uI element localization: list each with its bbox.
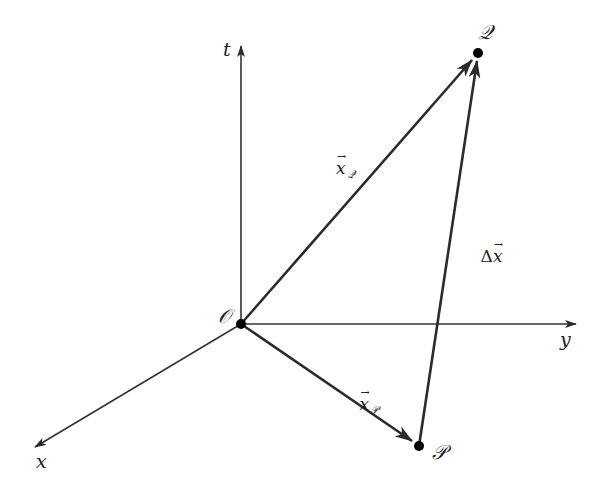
point-origin bbox=[236, 319, 246, 329]
point-P-label: 𝒫 bbox=[432, 442, 446, 462]
t-axis-label: t bbox=[223, 40, 231, 59]
spacetime-diagram bbox=[0, 0, 604, 490]
point-Q-label: 𝒬 bbox=[478, 22, 492, 42]
point-P bbox=[414, 441, 424, 451]
vector-x-P bbox=[241, 324, 412, 441]
vector-arrow-icon: → bbox=[494, 239, 503, 250]
vector-delta-x bbox=[419, 61, 477, 446]
vector-delta-x-label: Δ→x bbox=[481, 248, 503, 265]
delta-symbol: Δ bbox=[481, 246, 493, 266]
vector-subscript: 𝒫 bbox=[370, 404, 378, 417]
vector-x-Q bbox=[241, 60, 472, 324]
origin-label: 𝒪 bbox=[218, 306, 231, 326]
vector-x-Q-label: →x𝒬 bbox=[336, 160, 355, 180]
vector-subscript: 𝒬 bbox=[347, 168, 355, 181]
vector-arrow-icon: → bbox=[337, 151, 346, 162]
x-axis-label: x bbox=[36, 452, 47, 471]
y-axis-label: y bbox=[560, 330, 571, 349]
point-Q bbox=[473, 48, 483, 58]
vector-x-P-label: →x𝒫 bbox=[359, 396, 378, 416]
vector-arrow-icon: → bbox=[360, 387, 369, 398]
x-axis bbox=[35, 324, 241, 447]
